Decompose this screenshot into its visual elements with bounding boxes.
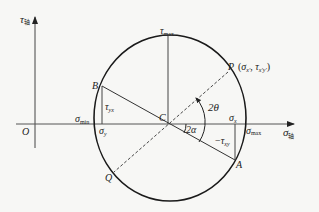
point-Q-label: Q xyxy=(105,172,113,183)
sigma-x-label: σx xyxy=(229,112,237,124)
tau-yx-label: τyx xyxy=(105,101,114,113)
mohr-circle xyxy=(94,35,246,201)
angle-2theta-label: 2θ xyxy=(208,101,220,113)
sigma-axis-label: σ轴 xyxy=(283,126,294,140)
mohr-circle-diagram: τ轴 σ轴 O B C A P Q (σx′, τx′y′) τmax σmin… xyxy=(0,0,319,212)
point-P-label: P xyxy=(227,61,234,72)
tau-axis-label: τ轴 xyxy=(20,13,30,26)
neg-tau-xy-label: −τxy xyxy=(215,135,230,147)
angle-2alpha-label: 2α xyxy=(186,124,197,135)
sigma-max-label: σmax xyxy=(246,125,261,136)
point-C-label: C xyxy=(159,112,166,123)
diameter-PQ xyxy=(114,72,228,172)
point-B-label: B xyxy=(92,80,98,91)
sigma-min-label: σmin xyxy=(75,113,89,125)
sigma-y-label: σy xyxy=(99,125,107,137)
P-coordinates-label: (σx′, τx′y′) xyxy=(238,61,270,73)
origin-label: O xyxy=(22,126,29,137)
angle-2theta-arc xyxy=(196,98,205,142)
tau-max-label: τmax xyxy=(160,25,174,37)
point-A-label: A xyxy=(235,159,243,170)
